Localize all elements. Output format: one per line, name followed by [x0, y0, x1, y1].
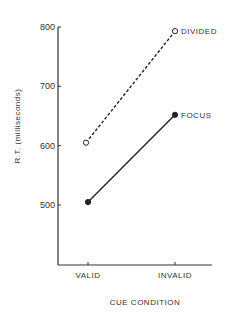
data-point-divided [172, 29, 177, 34]
chart: 500600700800VALIDINVALIDCUE CONDITIONR.T… [0, 0, 236, 313]
x-axis-title: CUE CONDITION [110, 298, 181, 307]
y-axis-title: R.T. (milliseconds) [13, 89, 22, 164]
y-tick-label: 800 [40, 22, 55, 32]
y-tick-label: 500 [40, 200, 55, 210]
data-point-focus [172, 112, 177, 117]
data-point-divided [83, 140, 88, 145]
series-line-focus [88, 115, 175, 202]
y-tick-label: 600 [40, 141, 55, 151]
series-label-focus: FOCUS [181, 111, 212, 120]
y-tick-label: 700 [40, 81, 55, 91]
series-line-divided [86, 31, 175, 143]
data-point-focus [85, 199, 90, 204]
x-tick-label: VALID [75, 271, 100, 280]
x-tick-label: INVALID [158, 271, 192, 280]
series-label-divided: DIVIDED [181, 27, 217, 36]
